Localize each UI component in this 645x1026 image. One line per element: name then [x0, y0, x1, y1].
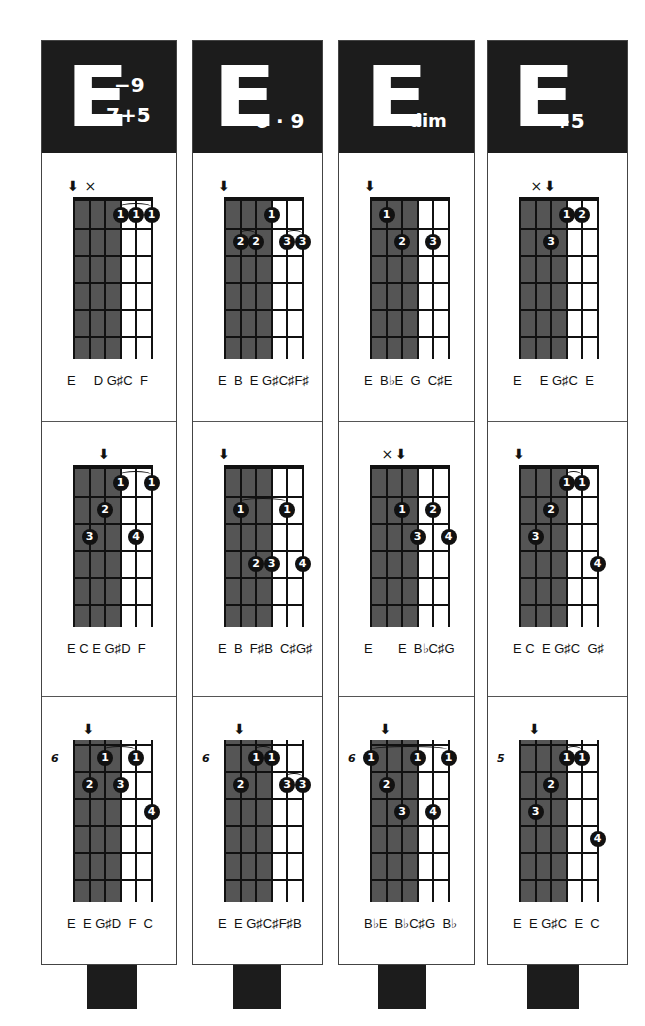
string-line	[89, 740, 91, 902]
finger-dot: 1	[574, 475, 590, 491]
root-arrow-icon: ⬇	[83, 722, 95, 736]
chord-subscript: dim	[409, 111, 447, 131]
string-line	[73, 465, 75, 627]
string-notes: E C E G♯D F	[67, 641, 146, 656]
string-line	[386, 740, 388, 902]
string-notes: E B E G♯C♯F♯	[218, 373, 309, 388]
fret-line	[519, 309, 599, 311]
string-line	[550, 465, 552, 627]
fretboard-shade	[370, 197, 417, 359]
fret-line	[370, 255, 450, 257]
fret-line	[370, 336, 450, 338]
string-notes: E E G♯C E C	[513, 916, 600, 931]
finger-dot: 2	[233, 777, 249, 793]
string-line	[448, 197, 450, 359]
string-line	[302, 197, 304, 359]
string-line	[597, 197, 599, 359]
fret-line	[370, 496, 450, 498]
finger-dot: 4	[425, 804, 441, 820]
string-line	[73, 740, 75, 902]
string-line	[73, 197, 75, 359]
finger-dot: 3	[528, 804, 544, 820]
fret-line	[73, 228, 153, 230]
finger-dot: 1	[128, 207, 144, 223]
finger-dot: 3	[264, 556, 280, 572]
finger-dot: 4	[441, 529, 457, 545]
root-arrow-icon: ⬇	[544, 179, 556, 193]
string-line	[432, 197, 434, 359]
fret-line	[519, 577, 599, 579]
fret-line	[73, 523, 153, 525]
finger-dot: 3	[410, 529, 426, 545]
string-notes: B♭E B♭C♯G B♭	[364, 916, 457, 931]
string-line	[240, 465, 242, 627]
string-line	[519, 465, 521, 627]
string-notes: E B♭E G C♯E	[364, 373, 452, 388]
string-line	[432, 740, 434, 902]
string-line	[240, 740, 242, 902]
chord-diagram: ⬇11234E C E G♯C G♯	[488, 421, 629, 691]
fret-line	[224, 852, 304, 854]
finger-dot: 1	[559, 750, 575, 766]
fret-line	[370, 282, 450, 284]
string-line	[417, 197, 419, 359]
fret-line	[73, 852, 153, 854]
fret-line	[224, 879, 304, 881]
string-line	[370, 465, 372, 627]
finger-dot: 2	[574, 207, 590, 223]
string-notes: E D G♯C F	[67, 373, 148, 388]
fret-line	[519, 852, 599, 854]
string-line	[535, 465, 537, 627]
string-line	[135, 465, 137, 627]
finger-dot: 1	[363, 750, 379, 766]
finger-dot: 3	[394, 804, 410, 820]
chord-diagram: ⬇123E B♭E G C♯E	[339, 153, 476, 423]
fret-position-label: 6	[51, 752, 59, 765]
fret-line	[224, 604, 304, 606]
finger-dot: 1	[97, 750, 113, 766]
fret-line	[224, 577, 304, 579]
nut	[370, 465, 450, 469]
chord-subscript: +5	[554, 111, 585, 131]
fretboard-shade	[370, 740, 417, 902]
fret-line	[519, 523, 599, 525]
chord-card: E+5⬇×123E E G♯C E⬇11234E C E G♯C G♯⬇5112…	[487, 40, 628, 965]
string-line	[432, 465, 434, 627]
string-line	[104, 465, 106, 627]
fret-line	[370, 577, 450, 579]
fret-line	[519, 825, 599, 827]
string-line	[89, 465, 91, 627]
finger-dot: 4	[295, 556, 311, 572]
root-arrow-icon: ⬇	[67, 179, 79, 193]
finger-dot: 3	[113, 777, 129, 793]
chord-diagram: ⬇×1234E E B♭C♯G	[339, 421, 476, 691]
fret-line	[73, 825, 153, 827]
string-line	[224, 197, 226, 359]
finger-dot: 1	[441, 750, 457, 766]
fret-line	[519, 496, 599, 498]
fret-line	[370, 550, 450, 552]
finger-dot: 2	[543, 777, 559, 793]
chord-diagram: ⬇12233E B E G♯C♯F♯	[193, 153, 324, 423]
fretboard-shade	[224, 740, 271, 902]
finger-dot: 1	[264, 207, 280, 223]
root-arrow-icon: ⬇	[234, 722, 246, 736]
string-line	[240, 197, 242, 359]
nut	[224, 197, 304, 201]
fretboard-shade	[73, 465, 120, 627]
fret-line	[519, 336, 599, 338]
string-notes: E E G♯D F C	[67, 916, 153, 931]
string-line	[120, 740, 122, 902]
root-arrow-icon: ⬇	[98, 447, 110, 461]
fret-line	[224, 825, 304, 827]
finger-dot: 3	[528, 529, 544, 545]
muted-string-icon: ×	[531, 179, 543, 193]
fret-position-label: 6	[202, 752, 210, 765]
fret-line	[370, 798, 450, 800]
chord-column: E−97+5⬇×111E D G♯C F⬇11234E C E G♯D F⬇61…	[41, 40, 177, 1025]
string-notes: E E G♯C E	[513, 373, 594, 388]
root-arrow-icon: ⬇	[395, 447, 407, 461]
chord-superscript: −9	[114, 75, 145, 95]
chord-diagram: ⬇×123E E G♯C E	[488, 153, 629, 423]
string-line	[104, 197, 106, 359]
